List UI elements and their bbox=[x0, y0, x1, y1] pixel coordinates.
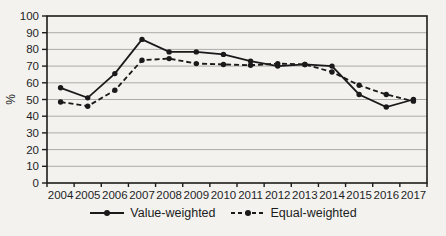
line-chart-figure: 0102030405060708090100200420052006200720… bbox=[0, 0, 446, 236]
x-axis-tick-label: 2006 bbox=[102, 189, 128, 201]
legend-label-equal-weighted: Equal-weighted bbox=[271, 206, 357, 220]
x-axis-tick-label: 2016 bbox=[373, 189, 399, 201]
data-point-marker-value-weighted bbox=[58, 85, 63, 90]
data-point-marker-equal-weighted bbox=[194, 61, 199, 66]
data-point-marker-equal-weighted bbox=[139, 58, 144, 63]
data-point-marker-equal-weighted bbox=[112, 88, 117, 93]
data-point-marker-equal-weighted bbox=[384, 92, 389, 97]
y-axis-tick-label: 100 bbox=[20, 10, 39, 22]
x-axis-tick-label: 2011 bbox=[238, 189, 263, 201]
data-point-marker-equal-weighted bbox=[58, 99, 63, 104]
chart-legend: Value-weighted Equal-weighted bbox=[0, 206, 446, 220]
data-point-marker-equal-weighted bbox=[166, 56, 171, 61]
data-point-marker-equal-weighted bbox=[275, 61, 280, 66]
y-axis-tick-label: 30 bbox=[26, 127, 39, 139]
x-axis-tick-label: 2012 bbox=[265, 189, 291, 201]
data-point-marker-value-weighted bbox=[112, 71, 117, 76]
data-point-marker-value-weighted bbox=[85, 95, 90, 100]
data-point-marker-equal-weighted bbox=[85, 103, 90, 108]
data-point-marker-value-weighted bbox=[329, 63, 334, 68]
x-axis-tick-label: 2017 bbox=[401, 189, 427, 201]
y-axis-tick-label: 70 bbox=[26, 60, 39, 72]
x-axis-tick-label: 2014 bbox=[319, 189, 345, 201]
legend-item-equal-weighted: Equal-weighted bbox=[230, 206, 357, 220]
data-point-marker-equal-weighted bbox=[221, 62, 226, 67]
data-point-marker-value-weighted bbox=[221, 52, 226, 57]
x-axis-tick-label: 2010 bbox=[211, 189, 237, 201]
y-axis-tick-label: 10 bbox=[26, 160, 39, 172]
y-axis-tick-label: 50 bbox=[26, 94, 39, 106]
data-point-marker-value-weighted bbox=[139, 37, 144, 42]
data-point-marker-equal-weighted bbox=[248, 63, 253, 68]
y-axis-tick-label: 40 bbox=[26, 110, 39, 122]
data-point-marker-equal-weighted bbox=[302, 62, 307, 67]
data-point-marker-equal-weighted bbox=[356, 83, 361, 88]
data-point-marker-value-weighted bbox=[356, 92, 361, 97]
x-axis-tick-label: 2009 bbox=[183, 189, 209, 201]
x-axis-tick-label: 2007 bbox=[129, 189, 155, 201]
data-point-marker-equal-weighted bbox=[411, 98, 416, 103]
x-axis-tick-label: 2008 bbox=[156, 189, 182, 201]
legend-label-value-weighted: Value-weighted bbox=[130, 206, 215, 220]
legend-item-value-weighted: Value-weighted bbox=[89, 206, 215, 220]
y-axis-tick-label: 20 bbox=[26, 144, 39, 156]
dashed-line-marker-icon bbox=[230, 207, 266, 219]
y-axis-tick-label: 0 bbox=[33, 177, 39, 189]
y-axis-tick-label: 80 bbox=[26, 43, 39, 55]
x-axis-tick-label: 2004 bbox=[48, 189, 74, 201]
data-point-marker-equal-weighted bbox=[329, 69, 334, 74]
solid-line-marker-icon bbox=[89, 207, 125, 219]
x-axis-tick-label: 2005 bbox=[75, 189, 101, 201]
data-point-marker-value-weighted bbox=[384, 104, 389, 109]
x-axis-tick-label: 2013 bbox=[292, 189, 318, 201]
y-axis-title: % bbox=[4, 94, 18, 105]
x-axis-tick-label: 2015 bbox=[346, 189, 372, 201]
line-chart: 0102030405060708090100200420052006200720… bbox=[0, 0, 446, 236]
data-point-marker-value-weighted bbox=[194, 49, 199, 54]
y-axis-tick-label: 60 bbox=[26, 77, 39, 89]
data-point-marker-value-weighted bbox=[166, 49, 171, 54]
y-axis-tick-label: 90 bbox=[26, 27, 39, 39]
